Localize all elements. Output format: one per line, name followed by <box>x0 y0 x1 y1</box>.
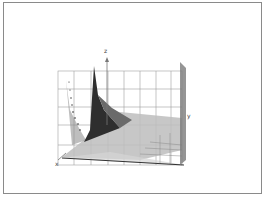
right-wall <box>180 62 186 165</box>
surface-plot: z y x <box>0 0 267 207</box>
left-peak <box>66 80 86 145</box>
z-axis-label: z <box>104 47 107 54</box>
y-axis-label: y <box>187 112 191 120</box>
x-axis-label: x <box>55 160 59 167</box>
